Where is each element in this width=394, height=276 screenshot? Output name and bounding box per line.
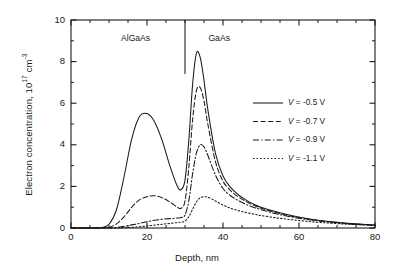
- y-tick-label: 0: [39, 222, 65, 233]
- legend-value: = -1.1 V: [294, 153, 326, 163]
- x-tick-label: 0: [51, 231, 91, 242]
- y-tick-label: 6: [39, 97, 65, 108]
- x-tick-label: 80: [355, 231, 394, 242]
- figure: Electron concentration, 1017 cm-3 Depth,…: [0, 0, 394, 276]
- legend-label: V = -0.7 V: [288, 116, 325, 126]
- curve-dashed: [71, 86, 375, 228]
- x-axis-label: Depth, nm: [0, 252, 394, 263]
- y-tick-label: 4: [39, 138, 65, 149]
- x-tick-label: 60: [279, 231, 319, 242]
- curve-solid: [71, 51, 375, 228]
- legend-swatches: [253, 103, 283, 159]
- legend-label: V = -0.9 V: [288, 134, 325, 144]
- legend-value: = -0.5 V: [294, 97, 326, 107]
- legend-label: V = -0.5 V: [288, 97, 325, 107]
- region-label-gaas: GaAs: [189, 33, 249, 43]
- data-curves: [71, 51, 375, 228]
- legend-label: V = -1.1 V: [288, 153, 325, 163]
- y-tick-label: 10: [39, 14, 65, 25]
- axis-ticks: [71, 20, 375, 228]
- region-label-algaas: AlGaAs: [106, 33, 166, 43]
- legend-value: = -0.9 V: [294, 134, 326, 144]
- x-tick-label: 40: [203, 231, 243, 242]
- curve-dash-dot: [71, 144, 375, 228]
- y-tick-label: 8: [39, 55, 65, 66]
- y-axis-label: Electron concentration, 1017 cm-3: [23, 35, 34, 215]
- x-tick-label: 20: [127, 231, 167, 242]
- y-tick-label: 2: [39, 180, 65, 191]
- legend-value: = -0.7 V: [294, 116, 326, 126]
- plot-frame: [71, 20, 375, 228]
